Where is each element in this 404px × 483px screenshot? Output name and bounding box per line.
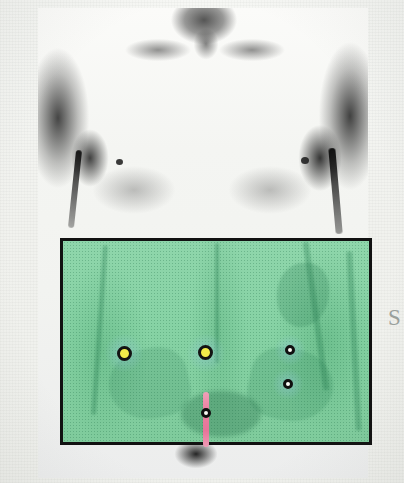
- marker-right-lower: [283, 379, 293, 389]
- scan-field-overlay: [60, 238, 372, 445]
- figure-root: S: [0, 0, 404, 483]
- marker-center-hot-spot: [198, 345, 213, 360]
- caption-edge-letter: S: [388, 306, 404, 329]
- contour-inguinal-region: [181, 391, 261, 437]
- marker-left-hot-spot: [117, 346, 132, 361]
- marker-midline-lower: [201, 408, 211, 418]
- contour-midline: [215, 243, 219, 363]
- pink-midline-line: [203, 392, 209, 447]
- marker-right-upper: [285, 345, 295, 355]
